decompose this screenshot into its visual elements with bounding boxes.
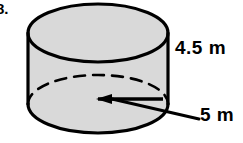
height-dimension-label: 4.5 m (175, 38, 226, 57)
cylinder-diagram-figure: 8. 4.5 m 5 m (0, 0, 243, 143)
diameter-dimension-label: 5 m (200, 105, 234, 124)
problem-number-label: 8. (0, 1, 9, 16)
